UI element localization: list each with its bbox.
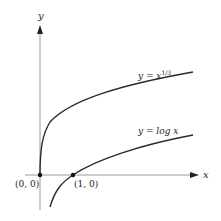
cube-root-label: y = x1/3 xyxy=(137,69,171,81)
origin-label: (0, 0) xyxy=(15,179,39,189)
one-zero-label: (1, 0) xyxy=(74,179,98,189)
one-zero-point xyxy=(71,173,75,177)
log-label: y = log x xyxy=(137,126,178,136)
y-axis-arrow-icon xyxy=(37,25,43,34)
y-axis-label: y xyxy=(37,10,44,21)
x-axis-label: x xyxy=(203,169,209,180)
x-axis-arrow-icon xyxy=(190,172,199,178)
cube-root-curve xyxy=(40,72,193,175)
origin-point xyxy=(38,173,42,177)
graph-canvas: y x y = x1/3 y = log x (0, 0) (1, 0) xyxy=(0,0,221,221)
log-curve xyxy=(50,135,193,207)
